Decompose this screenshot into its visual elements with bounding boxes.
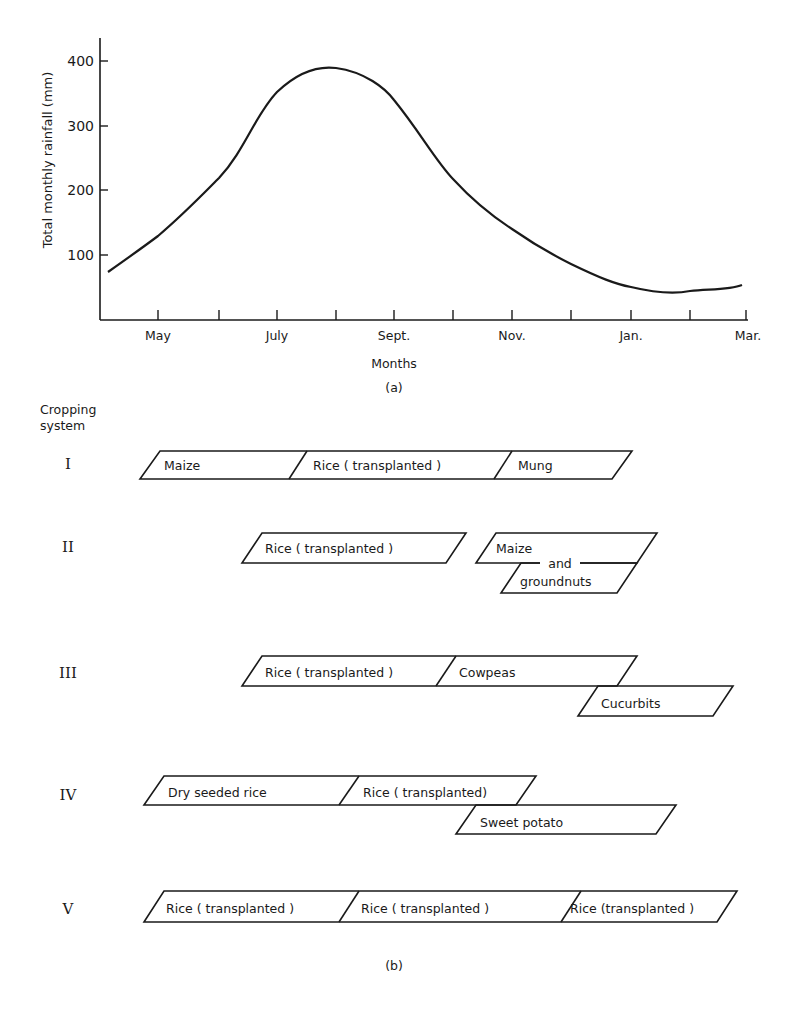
crop-label: Mung [518,458,553,473]
cropping-header-line2: system [40,418,85,433]
crop-label: Rice (transplanted ) [570,901,694,916]
x-ticks [158,310,746,320]
x-tick-label-may: May [145,328,171,343]
crop-label: Dry seeded rice [168,785,267,800]
caption-a: (a) [385,380,402,395]
system-numeral-iv: IV [60,786,78,804]
crop-label: Rice ( transplanted ) [265,665,393,680]
crop-label: Maize [164,458,200,473]
x-tick-label-mar: Mar. [735,328,761,343]
crop-label: groundnuts [520,574,591,589]
figure: 400 300 200 100 Total monthly rainfall (… [0,0,788,1025]
crop-label: Rice ( transplanted ) [166,901,294,916]
x-tick-label-sept: Sept. [378,328,410,343]
y-tick-label-400: 400 [67,53,94,69]
x-tick-label-jan: Jan. [618,328,642,343]
rainfall-curve [108,68,742,293]
system-numeral-v: V [62,900,75,918]
caption-b: (b) [385,958,403,973]
y-axis-label: Total monthly rainfall (mm) [40,72,55,250]
crop-label: Cowpeas [459,665,515,680]
crop-label: Rice ( transplanted ) [361,901,489,916]
system-numeral-ii: II [62,538,74,556]
x-tick-label-july: July [265,328,289,343]
crop-label: Maize [496,541,532,556]
crop-label: Cucurbits [601,696,660,711]
rainfall-chart [100,38,748,320]
crop-label: Rice ( transplanted) [363,785,487,800]
cropping-header-line1: Cropping [40,402,96,417]
y-tick-label-300: 300 [67,118,94,134]
y-tick-label-200: 200 [67,182,94,198]
y-tick-label-100: 100 [67,247,94,263]
system-numeral-i: I [65,455,71,473]
system-numeral-iii: III [59,664,77,682]
x-tick-label-nov: Nov. [498,328,525,343]
crop-label: Rice ( transplanted ) [265,541,393,556]
crop-label: and [548,556,572,571]
x-axis-label: Months [371,356,417,371]
crop-label: Sweet potato [480,815,563,830]
crop-label: Rice ( transplanted ) [313,458,441,473]
